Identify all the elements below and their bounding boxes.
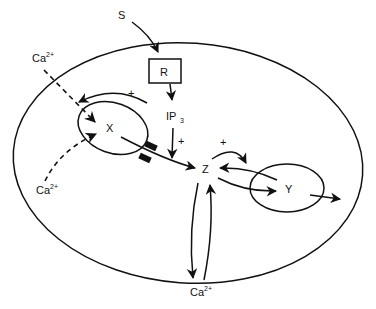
- s-to-r-arrow: [132, 22, 158, 52]
- y-to-outside-arrow: [310, 195, 340, 199]
- channel-block-2: [138, 153, 151, 164]
- ca-left-label: Ca: [36, 184, 51, 196]
- ca-bottom-superscript: 2+: [204, 285, 212, 292]
- x-feedback-plus: +: [128, 87, 134, 99]
- ca-top-label: Ca: [32, 52, 47, 64]
- z-to-ca-bottom-arrow: [191, 183, 198, 278]
- ca-bottom-label: Ca: [190, 286, 205, 298]
- r-to-ip3-arrow: [170, 84, 172, 100]
- signal-label: S: [118, 9, 125, 21]
- ip3-to-z-arrow: [172, 128, 173, 158]
- ca-left-superscript: 2+: [50, 183, 58, 190]
- z-to-y-arrow: [218, 178, 276, 191]
- ca-bottom-to-z-arrow: [204, 185, 211, 280]
- ip3-plus-sign: +: [178, 135, 184, 147]
- ip3-subscript: 3: [180, 117, 184, 124]
- y-to-z-arrow: [220, 168, 277, 180]
- ca-top-superscript: 2+: [46, 51, 54, 58]
- z-to-y-plus-arrow: [212, 152, 246, 163]
- calcium-signaling-diagram: R S IP 3 + X + Ca 2+ Ca 2+ Z + Y Ca 2+: [0, 0, 376, 309]
- ca-top-to-x-arrow: [44, 70, 95, 122]
- y-label: Y: [285, 183, 293, 195]
- cell-membrane: [5, 31, 371, 295]
- ip3-label: IP: [166, 110, 176, 122]
- z-label: Z: [202, 163, 209, 175]
- receptor-label: R: [160, 66, 168, 78]
- x-label: X: [106, 122, 114, 134]
- z-to-y-plus: +: [220, 136, 226, 148]
